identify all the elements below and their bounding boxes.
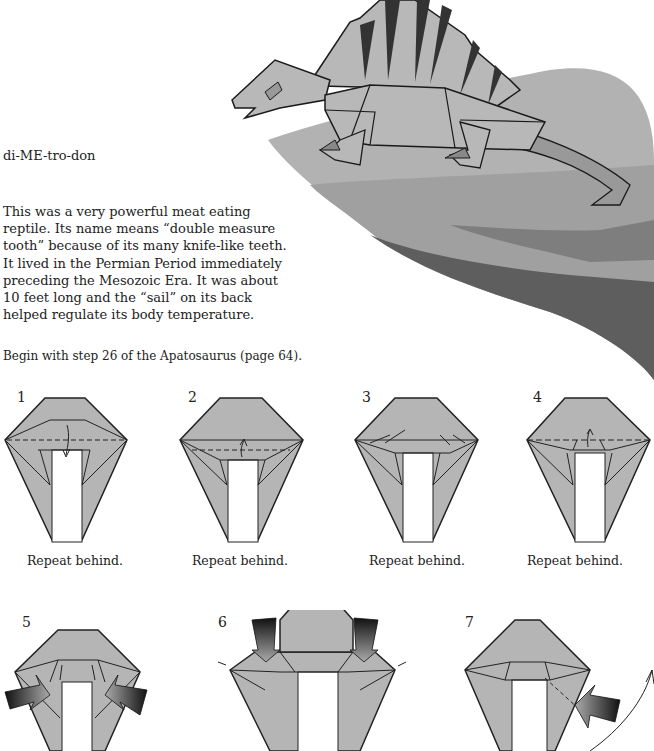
step-number: 4 <box>533 389 542 405</box>
fold-diagram-icon <box>0 385 165 545</box>
fold-diagram-icon <box>345 385 510 545</box>
step-number: 1 <box>17 389 26 405</box>
step-caption: Repeat behind. <box>5 553 145 568</box>
step-number: 7 <box>465 614 474 630</box>
step-6: 6 <box>210 610 420 751</box>
step-caption: Repeat behind. <box>347 553 487 568</box>
fold-diagram-icon <box>210 610 420 751</box>
pronunciation: di-ME-tro-don <box>3 148 96 163</box>
step-number: 5 <box>22 614 31 630</box>
fold-diagram-icon <box>170 385 335 545</box>
step-5: 5 <box>0 610 200 751</box>
fold-diagram-icon <box>515 385 654 545</box>
dimetrodon-illustration <box>220 0 654 380</box>
step-number: 3 <box>362 389 371 405</box>
intro-instruction: Begin with step 26 of the Apatosaurus (p… <box>3 349 302 363</box>
step-7: 7 <box>440 610 654 751</box>
step-caption: Repeat behind. <box>170 553 310 568</box>
origami-dimetrodon-icon <box>220 0 654 380</box>
step-4: 4 Repeat behind. <box>515 385 654 575</box>
step-2: 2 Repeat behind. <box>170 385 335 575</box>
step-3: 3 Repeat behind. <box>345 385 510 575</box>
step-number: 2 <box>188 389 197 405</box>
fold-diagram-icon <box>440 610 654 751</box>
step-number: 6 <box>218 614 227 630</box>
step-1: 1 Repeat behind. <box>0 385 165 575</box>
step-caption: Repeat behind. <box>505 553 645 568</box>
push-arrow-icon <box>575 685 620 728</box>
fold-diagram-icon <box>0 610 200 751</box>
